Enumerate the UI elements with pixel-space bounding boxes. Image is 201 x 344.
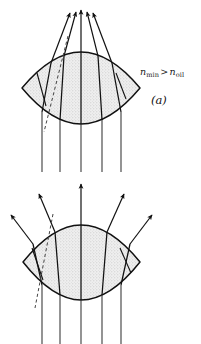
panel-a-diagram	[0, 0, 201, 172]
panel-b-diagram	[0, 172, 201, 344]
panel-b-diverging-lens: nmin<noil (b)	[0, 172, 201, 344]
panel-tag-a: (a)	[151, 93, 167, 107]
refractive-index-condition-a: nmin>noil	[140, 66, 184, 77]
panel-a-converging-lens: nmin>noil (a)	[0, 0, 201, 172]
optics-figure: nmin>noil (a)	[0, 0, 201, 344]
